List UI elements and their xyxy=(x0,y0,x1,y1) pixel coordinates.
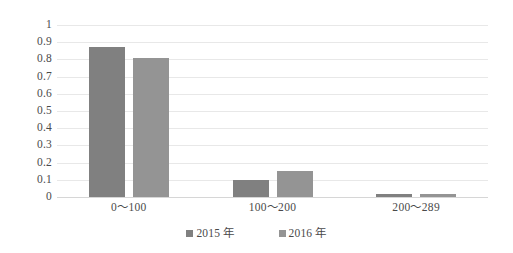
y-axis-tick-label: 0.6 xyxy=(0,88,52,100)
y-axis-tick-label: 0.7 xyxy=(0,71,52,83)
y-axis-tick-label: 0.5 xyxy=(0,105,52,117)
bar xyxy=(89,47,125,197)
legend-item[interactable]: 2015 年 xyxy=(186,227,234,239)
legend-swatch-icon xyxy=(186,230,193,237)
y-axis-tick-label: 0 xyxy=(0,191,52,203)
bar xyxy=(376,194,412,197)
bar-chart: 10.90.80.70.60.50.40.30.20.10 0～100100～2… xyxy=(0,0,513,253)
x-axis: 0～100100～200200～289 xyxy=(57,200,488,218)
bar xyxy=(133,58,169,197)
bars-layer xyxy=(57,25,488,197)
chart-legend: 2015 年2016 年 xyxy=(0,227,513,239)
legend-label: 2016 年 xyxy=(289,227,327,239)
y-axis-tick-label: 0.3 xyxy=(0,139,52,151)
x-axis-category-label: 200～289 xyxy=(344,200,488,214)
legend-swatch-icon xyxy=(279,230,286,237)
y-axis: 10.90.80.70.60.50.40.30.20.10 xyxy=(0,0,52,253)
y-axis-tick-label: 1 xyxy=(0,19,52,31)
legend-item[interactable]: 2016 年 xyxy=(279,227,327,239)
y-axis-tick-label: 0.4 xyxy=(0,122,52,134)
y-axis-tick-label: 0.2 xyxy=(0,157,52,169)
y-axis-tick-label: 0.9 xyxy=(0,36,52,48)
y-axis-tick-label: 0.1 xyxy=(0,174,52,186)
y-axis-tick-label: 0.8 xyxy=(0,53,52,65)
bar xyxy=(233,180,269,197)
x-axis-category-label: 100～200 xyxy=(201,200,345,214)
bar xyxy=(277,171,313,197)
gridline xyxy=(57,197,488,198)
bar xyxy=(420,194,456,197)
x-axis-category-label: 0～100 xyxy=(57,200,201,214)
legend-label: 2015 年 xyxy=(196,227,234,239)
